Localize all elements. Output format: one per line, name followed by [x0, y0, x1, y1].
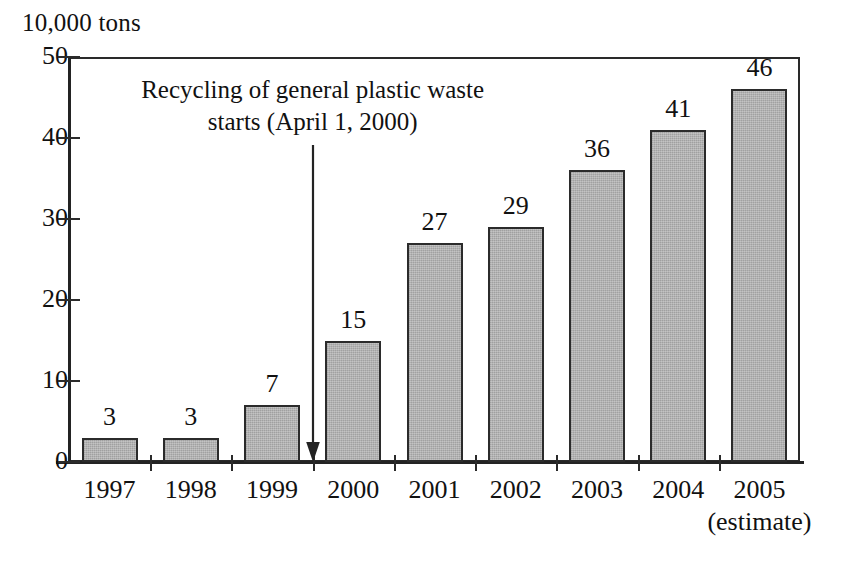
x-tick-mark	[719, 455, 721, 471]
x-tick-mark	[150, 455, 152, 471]
bar-2001	[407, 243, 463, 462]
y-tick-mark	[58, 299, 80, 301]
annotation-line-1: Recycling of general plastic waste	[133, 74, 493, 106]
bar-1999	[244, 405, 300, 462]
x-tick-mark	[556, 455, 558, 471]
bar-value-label: 7	[227, 369, 317, 399]
bar-2003	[569, 170, 625, 462]
bar-value-label: 3	[146, 402, 236, 432]
bar-2004	[650, 130, 706, 462]
bar-value-label: 27	[390, 207, 480, 237]
bar-value-label: 3	[65, 402, 155, 432]
annotation-arrow-icon	[306, 145, 320, 462]
y-tick-mark	[58, 218, 80, 220]
y-axis-unit-label: 10,000 tons	[22, 8, 141, 38]
x-tick-mark	[475, 455, 477, 471]
bar-value-label: 46	[714, 53, 804, 83]
y-tick-mark	[58, 380, 80, 382]
y-tick-mark	[58, 56, 80, 58]
bar-value-label: 41	[633, 94, 723, 124]
x-tick-mark	[231, 455, 233, 471]
x-tick-mark	[394, 455, 396, 471]
x-tick-mark	[638, 455, 640, 471]
bar-2000	[325, 341, 381, 463]
annotation-recycling-start: Recycling of general plastic waste start…	[133, 74, 493, 138]
bar-chart-figure: 10,000 tons 01020304050 337152729364146 …	[0, 0, 849, 562]
x-category-label-2005: 2005	[704, 474, 814, 506]
y-tick-mark	[58, 461, 80, 463]
bar-1997	[82, 438, 138, 462]
bar-value-label: 29	[471, 191, 561, 221]
bar-2005	[731, 89, 787, 462]
bar-value-label: 36	[552, 134, 642, 164]
x-category-sublabel-2005: (estimate)	[699, 506, 819, 538]
bar-1998	[163, 438, 219, 462]
annotation-line-2: starts (April 1, 2000)	[133, 106, 493, 138]
bar-2002	[488, 227, 544, 462]
y-tick-mark	[58, 137, 80, 139]
bar-value-label: 15	[308, 305, 398, 335]
